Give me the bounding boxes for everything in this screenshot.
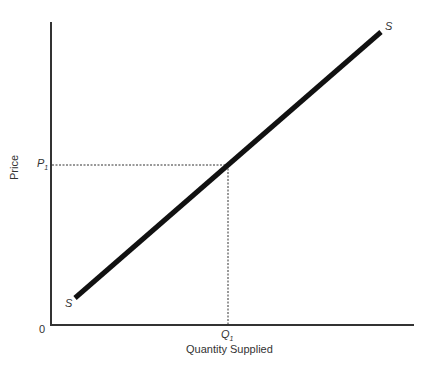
curve-label-bottom: S	[65, 297, 72, 309]
supply-diagram	[0, 0, 429, 369]
supply-curve	[75, 32, 381, 298]
quantity-marker: Q1	[221, 328, 233, 342]
price-marker: P1	[37, 157, 48, 171]
origin-label: 0	[39, 323, 45, 335]
x-axis-label: Quantity Supplied	[186, 343, 273, 355]
curve-label-top: S	[385, 20, 392, 32]
y-axis-label: Price	[8, 155, 20, 180]
